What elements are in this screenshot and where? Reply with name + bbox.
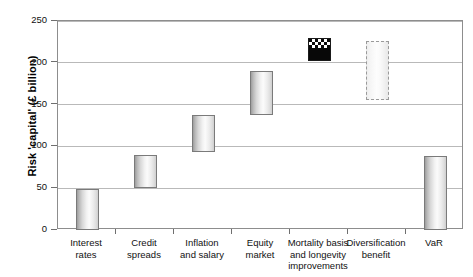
plot-area	[57, 20, 463, 229]
x-tick-mark-3	[231, 229, 232, 234]
gridline-250	[58, 21, 462, 22]
y-tick-label-0: 0	[0, 224, 47, 233]
x-axis-label-credit-spreads: Credit spreads	[111, 237, 177, 260]
x-axis-label-diversification-benefit: Diversification benefit	[343, 237, 409, 260]
x-axis-label-mortality-basis-and-longevity-improvements: Mortality basis and longevity improvemen…	[285, 237, 351, 272]
x-axis-label-interest-rates: Interest rates	[53, 237, 119, 260]
x-axis-label-var: VaR	[401, 237, 467, 249]
y-tick-label-50: 50	[0, 182, 47, 191]
bar-inflation-and-salary	[192, 115, 215, 153]
checkerboard-pattern	[309, 39, 330, 48]
bar-diversification-benefit	[366, 41, 389, 100]
y-tick-label-250: 250	[0, 15, 47, 24]
x-tick-mark-1	[115, 229, 116, 234]
x-tick-mark-6	[405, 229, 406, 234]
y-tick-label-100: 100	[0, 140, 47, 149]
bar-equity-market	[250, 71, 273, 114]
y-tick-label-150: 150	[0, 99, 47, 108]
y-tick-label-200: 200	[0, 57, 47, 66]
x-tick-mark-5	[347, 229, 348, 234]
gridline-100	[58, 146, 462, 147]
chart-figure: Risk 'capital' (£ billion) 0501001502002…	[0, 0, 473, 277]
gridline-50	[58, 188, 462, 189]
x-tick-mark-4	[289, 229, 290, 234]
bar-var	[424, 156, 447, 230]
bar-mortality-basis-and-longevity-improvements	[308, 38, 331, 61]
x-tick-mark-2	[173, 229, 174, 234]
bar-credit-spreads	[134, 155, 157, 188]
x-axis-label-inflation-and-salary: Inflation and salary	[169, 237, 235, 260]
x-axis-label-equity-market: Equity market	[227, 237, 293, 260]
gridline-200	[58, 62, 462, 63]
bar-interest-rates	[76, 189, 99, 230]
